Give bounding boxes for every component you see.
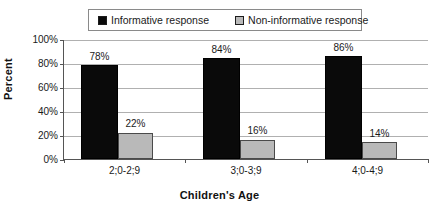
legend-item-non-informative-response: Non-informative response (235, 10, 368, 30)
y-tick-20 (60, 136, 64, 137)
bar-label-non-informative-4-0-4-9: 14% (362, 129, 397, 139)
y-tick-label-20: 20% (38, 131, 58, 141)
bar-label-informative-3-0-3-9: 84% (203, 45, 240, 55)
bar-chart: Informative response Non-informative res… (0, 0, 439, 211)
gridline-100 (64, 40, 428, 41)
x-tick-2 (307, 159, 308, 163)
x-tick-0 (64, 159, 65, 163)
plot-area: 100% 80% 60% 40% 20% 0% 78% 22% 84% 16% … (63, 40, 428, 160)
bar-informative-3-0-3-9 (203, 58, 240, 159)
y-tick-60 (60, 88, 64, 89)
x-tick-label-3-0-3-9: 3;0-3;9 (185, 166, 307, 176)
gridline-40 (64, 112, 428, 113)
black-square-icon (98, 16, 107, 25)
bar-label-informative-4-0-4-9: 86% (325, 43, 362, 53)
y-tick-label-0: 0% (44, 155, 58, 165)
bar-label-non-informative-2-0-2-9: 22% (118, 119, 153, 129)
legend-label-informative-response: Informative response (111, 15, 209, 26)
bar-informative-4-0-4-9 (325, 56, 362, 159)
y-tick-100 (60, 40, 64, 41)
y-tick-40 (60, 112, 64, 113)
x-tick-label-4-0-4-9: 4;0-4;9 (307, 166, 428, 176)
y-axis-title: Percent (2, 58, 14, 100)
y-tick-label-40: 40% (38, 107, 58, 117)
y-tick-label-100: 100% (32, 35, 58, 45)
y-tick-label-60: 60% (38, 83, 58, 93)
bar-label-non-informative-3-0-3-9: 16% (240, 126, 275, 136)
x-axis-title: Children's Age (0, 189, 439, 201)
legend-item-informative-response: Informative response (98, 10, 209, 30)
chart-legend: Informative response Non-informative res… (88, 9, 362, 31)
gray-square-icon (235, 16, 244, 25)
legend-label-non-informative-response: Non-informative response (248, 15, 368, 26)
y-tick-80 (60, 64, 64, 65)
bar-informative-2-0-2-9 (81, 65, 118, 159)
bar-non-informative-3-0-3-9 (240, 140, 275, 159)
x-tick-3 (428, 159, 429, 163)
x-tick-1 (185, 159, 186, 163)
x-tick-label-2-0-2-9: 2;0-2;9 (64, 166, 185, 176)
gridline-60 (64, 88, 428, 89)
bar-label-informative-2-0-2-9: 78% (81, 52, 118, 62)
y-tick-label-80: 80% (38, 59, 58, 69)
bar-non-informative-4-0-4-9 (362, 142, 397, 159)
bar-non-informative-2-0-2-9 (118, 133, 153, 159)
gridline-80 (64, 64, 428, 65)
